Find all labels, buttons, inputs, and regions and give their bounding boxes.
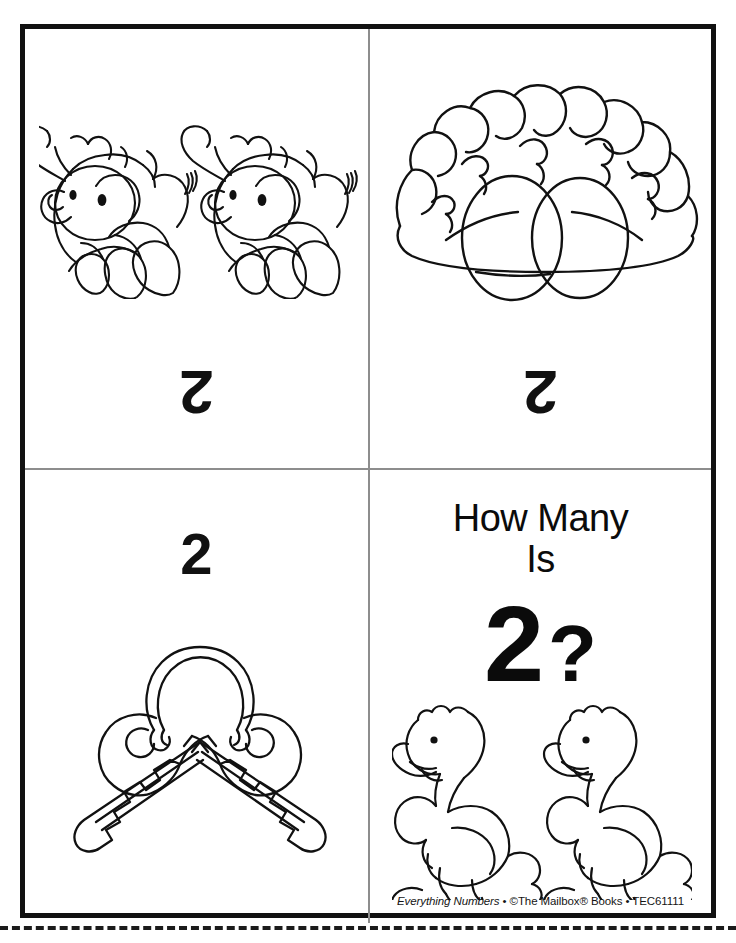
cell-numeral-top-left: 2 (25, 361, 368, 423)
footer-publisher: ©The Mailbox® Books (510, 895, 623, 907)
two-elephants-illustration (39, 89, 359, 299)
dashed-cut-line (0, 926, 736, 930)
cell-numeral-bottom-left: 2 (25, 525, 368, 583)
heading-line-2: Is (370, 539, 711, 580)
nest-with-two-eggs-illustration (390, 74, 700, 304)
two-ducks-illustration (392, 700, 692, 900)
footer-separator-1: • (499, 895, 509, 907)
question-number-row: 2? (370, 590, 711, 698)
heading-line-1: How Many (370, 498, 711, 539)
worksheet-page: 2 (0, 0, 736, 943)
question-mark: ? (548, 609, 597, 698)
card-frame: 2 (20, 24, 716, 918)
footer-book-title: Everything Numbers (397, 895, 499, 907)
two-keys-on-ring-illustration (50, 610, 350, 870)
footer-credit: Everything Numbers • ©The Mailbox® Books… (370, 895, 711, 907)
nest-eggs-card[interactable]: 2 (370, 29, 711, 468)
cell-numeral-top-right: 2 (370, 361, 711, 423)
question-numeral: 2 (484, 583, 544, 704)
cover-heading: How Many Is (370, 498, 711, 580)
keys-card[interactable]: 2 (25, 470, 368, 923)
footer-product-code: TEC61111 (632, 895, 684, 907)
cover-card[interactable]: How Many Is 2? (370, 470, 711, 923)
elephants-card[interactable]: 2 (25, 29, 368, 468)
footer-separator-2: • (622, 895, 632, 907)
